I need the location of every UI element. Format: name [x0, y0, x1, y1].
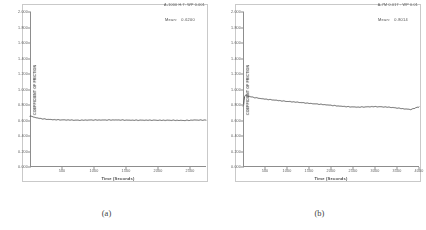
axes-a: COEFFICIENT OF FRICTION Time (Seconds) 0… — [30, 12, 206, 167]
y-tick-label-b: 1.400 — [231, 57, 241, 61]
y-tick-label-b: 1.800 — [231, 26, 241, 30]
x-tick-mark-a — [190, 167, 191, 170]
y-tick-mark-a — [28, 89, 31, 90]
x-tick-mark-a — [126, 167, 127, 170]
y-tick-label-b: 1.600 — [231, 41, 241, 45]
series-line-b — [243, 95, 419, 110]
x-tick-mark-b — [419, 167, 420, 170]
y-tick-label-a: 0.800 — [18, 103, 28, 107]
axes-b: COEFFICIENT OF FRICTION Time (Seconds) 0… — [243, 12, 419, 167]
y-tick-mark-b — [241, 58, 244, 59]
x-axis-title-a: Time (Seconds) — [101, 176, 134, 181]
y-tick-mark-b — [241, 105, 244, 106]
y-tick-label-a: 2.000 — [18, 10, 28, 14]
y-tick-label-a: 0.000 — [18, 165, 28, 169]
y-tick-label-a: 0.400 — [18, 134, 28, 138]
y-tick-label-b: 2.000 — [231, 10, 241, 14]
y-tick-mark-b — [241, 74, 244, 75]
y-tick-label-b: 0.200 — [231, 150, 241, 154]
x-tick-mark-b — [265, 167, 266, 170]
y-tick-label-a: 1.600 — [18, 41, 28, 45]
y-tick-label-a: 1.800 — [18, 26, 28, 30]
panel-b-header: A-7M 0.017 : WP 0.01 — [378, 3, 418, 8]
y-tick-mark-a — [28, 43, 31, 44]
x-tick-mark-b — [353, 167, 354, 170]
y-tick-label-b: 0.800 — [231, 103, 241, 107]
series-line-a — [30, 116, 206, 121]
y-tick-mark-a — [28, 58, 31, 59]
x-tick-mark-a — [94, 167, 95, 170]
y-tick-mark-b — [241, 120, 244, 121]
y-tick-mark-a — [28, 151, 31, 152]
y-tick-label-a: 1.400 — [18, 57, 28, 61]
y-tick-label-a: 0.200 — [18, 150, 28, 154]
y-tick-mark-b — [241, 151, 244, 152]
y-tick-mark-b — [241, 43, 244, 44]
panel-a-header: A-1000 H.7: WP 0.001 — [164, 3, 205, 8]
x-tick-mark-b — [287, 167, 288, 170]
y-tick-mark-a — [28, 105, 31, 106]
y-tick-label-a: 1.000 — [18, 88, 28, 92]
y-tick-mark-a — [28, 12, 31, 13]
caption-b: (b) — [213, 208, 426, 218]
data-curve-b — [243, 12, 419, 167]
x-tick-mark-a — [62, 167, 63, 170]
y-tick-mark-b — [241, 12, 244, 13]
x-tick-mark-b — [309, 167, 310, 170]
y-tick-mark-b — [241, 89, 244, 90]
data-curve-a — [30, 12, 206, 167]
y-tick-label-b: 0.600 — [231, 119, 241, 123]
x-tick-mark-b — [397, 167, 398, 170]
y-tick-mark-a — [28, 120, 31, 121]
y-tick-mark-a — [28, 74, 31, 75]
y-tick-label-b: 0.400 — [231, 134, 241, 138]
x-tick-mark-a — [158, 167, 159, 170]
caption-a: (a) — [0, 208, 213, 218]
y-tick-label-b: 1.000 — [231, 88, 241, 92]
y-tick-mark-b — [241, 27, 244, 28]
x-tick-mark-b — [375, 167, 376, 170]
y-tick-label-a: 1.200 — [18, 72, 28, 76]
y-tick-label-b: 0.000 — [231, 165, 241, 169]
y-tick-label-a: 0.600 — [18, 119, 28, 123]
y-tick-mark-b — [241, 167, 244, 168]
figure-sheet: A-1000 H.7: WP 0.001 Mean:0.6200 COEFFIC… — [0, 0, 426, 230]
y-tick-mark-a — [28, 167, 31, 168]
y-tick-label-b: 1.200 — [231, 72, 241, 76]
x-tick-mark-b — [331, 167, 332, 170]
x-axis-title-b: Time (Seconds) — [314, 176, 347, 181]
panel-a: A-1000 H.7: WP 0.001 Mean:0.6200 COEFFIC… — [0, 0, 213, 230]
y-tick-mark-a — [28, 27, 31, 28]
y-tick-mark-a — [28, 136, 31, 137]
y-tick-mark-b — [241, 136, 244, 137]
panel-b: A-7M 0.017 : WP 0.01 Mean:0.8014 COEFFIC… — [213, 0, 426, 230]
